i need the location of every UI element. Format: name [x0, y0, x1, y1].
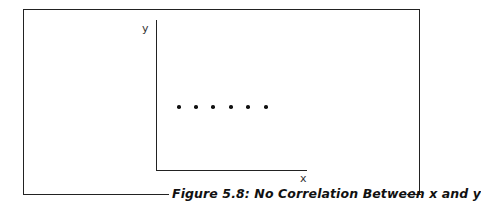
data-point [211, 105, 215, 109]
y-axis [156, 20, 157, 170]
data-point [177, 105, 181, 109]
y-axis-label: y [142, 22, 149, 35]
data-point [264, 105, 268, 109]
figure-caption: Figure 5.8: No Correlation Between x and… [172, 186, 481, 201]
data-point [229, 105, 233, 109]
x-axis-label: x [300, 172, 307, 185]
x-axis [156, 170, 307, 171]
data-point [194, 105, 198, 109]
frame-bottom-left-rule [23, 194, 169, 195]
figure-frame [23, 9, 420, 195]
data-point [246, 105, 250, 109]
